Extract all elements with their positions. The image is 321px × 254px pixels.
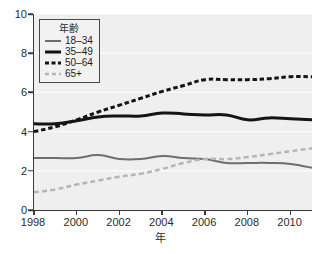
legend-label: 35–49 <box>65 47 93 57</box>
chart-legend: 年齢 18–3435–4950–6465+ <box>39 19 100 83</box>
x-tick-mark <box>119 210 121 215</box>
chart-container: 0246810 1998200020022004200620082010 年 年… <box>0 0 321 254</box>
x-tick-label: 2000 <box>64 217 88 228</box>
x-tick-mark <box>247 210 249 215</box>
x-tick-label: 2002 <box>106 217 130 228</box>
x-tick-mark <box>33 210 35 215</box>
legend-label: 50–64 <box>65 58 93 68</box>
legend-item[interactable]: 65+ <box>45 68 93 79</box>
series-line <box>34 77 312 132</box>
y-tick-mark <box>28 170 33 172</box>
y-tick-label: 8 <box>3 48 27 59</box>
y-tick-label: 10 <box>3 9 27 20</box>
y-tick-mark <box>28 131 33 133</box>
y-tick-mark <box>28 92 33 94</box>
legend-line-swatch-icon <box>45 36 61 46</box>
x-tick-label: 2010 <box>277 217 301 228</box>
y-tick-mark <box>28 52 33 54</box>
y-tick-label: 4 <box>3 126 27 137</box>
legend-line-swatch-icon <box>45 69 61 79</box>
x-tick-label: 2004 <box>149 217 173 228</box>
x-tick-label: 2008 <box>235 217 259 228</box>
legend-item[interactable]: 35–49 <box>45 46 93 57</box>
y-tick-mark <box>28 209 33 211</box>
x-tick-mark <box>290 210 292 215</box>
legend-item-group: 18–3435–4950–6465+ <box>45 35 93 79</box>
legend-line-swatch-icon <box>45 47 61 57</box>
y-tick-label: 6 <box>3 87 27 98</box>
x-tick-label: 1998 <box>21 217 45 228</box>
y-tick-mark <box>28 13 33 15</box>
series-line <box>34 113 312 124</box>
legend-line-swatch-icon <box>45 58 61 68</box>
legend-item[interactable]: 18–34 <box>45 35 93 46</box>
legend-item[interactable]: 50–64 <box>45 57 93 68</box>
x-tick-label: 2006 <box>192 217 216 228</box>
y-tick-label: 0 <box>3 205 27 216</box>
legend-label: 18–34 <box>65 36 93 46</box>
x-tick-mark <box>204 210 206 215</box>
legend-title: 年齢 <box>45 23 93 34</box>
x-tick-mark <box>161 210 163 215</box>
y-tick-label: 2 <box>3 165 27 176</box>
x-axis-title: 年 <box>0 233 321 244</box>
legend-label: 65+ <box>65 69 82 79</box>
x-tick-mark <box>76 210 78 215</box>
